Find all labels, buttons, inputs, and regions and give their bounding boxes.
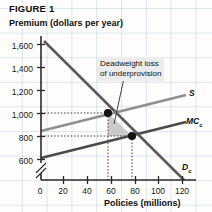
marginal-cost-curve-label-text: MC <box>186 116 199 126</box>
demand-curve-label: Dc <box>182 162 191 174</box>
figure-container: FIGURE 1 Premium (dollars per year) Poli… <box>0 0 212 212</box>
demand-curve-label-sub: c <box>188 168 191 174</box>
plot-area <box>0 0 212 212</box>
annotation-line-2: of underprovision <box>100 69 161 79</box>
marginal-cost-curve-label-sub: c <box>199 122 202 128</box>
supply-curve-label-text: S <box>189 88 195 98</box>
deadweight-loss-annotation: Deadweight loss of underprovision <box>97 57 164 81</box>
marginal-cost-curve-label: MCc <box>186 116 203 128</box>
supply-curve-label: S <box>189 88 195 98</box>
efficient-outcome-point <box>128 132 136 140</box>
y-axis-break-slash-1 <box>36 163 46 173</box>
annotation-line-1: Deadweight loss <box>100 59 161 69</box>
market-equilibrium-point <box>104 109 112 117</box>
